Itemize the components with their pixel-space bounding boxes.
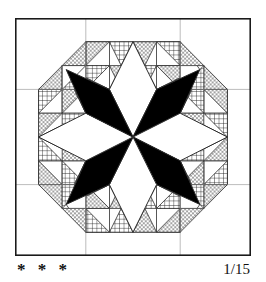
quilt-block-frame xyxy=(15,18,251,256)
feathered-star-diagram xyxy=(15,18,251,256)
quilt-pattern-page: * * * 1/15 xyxy=(0,0,266,282)
pattern-number: 1/15 xyxy=(223,262,250,277)
center-star-overlay xyxy=(39,42,228,232)
caption-row: * * * 1/15 xyxy=(0,256,266,282)
difficulty-rating: * * * xyxy=(17,261,71,278)
